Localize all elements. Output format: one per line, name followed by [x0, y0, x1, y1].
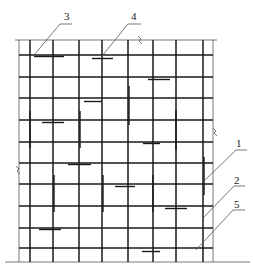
callout-label-1: 1 [236, 137, 242, 149]
callout-label-2: 2 [234, 174, 240, 186]
callout-label-4: 4 [131, 10, 137, 22]
lap-bars [30, 57, 204, 252]
callout-label-3: 3 [64, 10, 70, 22]
mesh-diagram: 12345 [0, 0, 253, 271]
leader-line-1 [203, 150, 247, 182]
main-grid [19, 40, 213, 262]
right-break-icon [213, 128, 217, 136]
callout-label-5: 5 [234, 198, 240, 210]
